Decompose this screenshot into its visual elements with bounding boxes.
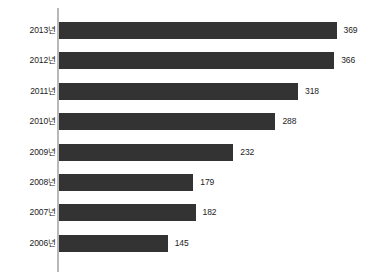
bar-value-label: 232 (240, 145, 254, 160)
bar-value-label: 366 (341, 53, 355, 68)
bar (59, 83, 299, 100)
bar (59, 113, 276, 130)
bar-value-label: 182 (203, 205, 217, 220)
bar-value-label: 318 (305, 84, 319, 99)
bar-row: 2006년145 (0, 235, 380, 252)
plot-area: 2013년3692012년3662011년3182010년2882009년232… (0, 0, 380, 280)
category-label: 2011년 (30, 84, 56, 99)
category-label: 2006년 (30, 236, 56, 251)
category-label: 2012년 (30, 53, 56, 68)
bar (59, 174, 194, 191)
bar (59, 52, 335, 69)
bar-value-label: 369 (344, 23, 358, 38)
bar-row: 2010년288 (0, 113, 380, 130)
category-label: 2008년 (30, 175, 56, 190)
bar (59, 144, 234, 161)
bar-row: 2007년182 (0, 204, 380, 221)
bar (59, 204, 196, 221)
bar-chart: 2013년3692012년3662011년3182010년2882009년232… (0, 0, 380, 280)
bar (59, 22, 337, 39)
bar-row: 2013년369 (0, 22, 380, 39)
category-label: 2009년 (30, 145, 56, 160)
category-label: 2007년 (30, 205, 56, 220)
bar-value-label: 288 (282, 114, 296, 129)
bar-row: 2008년179 (0, 174, 380, 191)
bar-value-label: 179 (200, 175, 214, 190)
bar-row: 2009년232 (0, 144, 380, 161)
bar-row: 2011년318 (0, 83, 380, 100)
category-label: 2013년 (30, 23, 56, 38)
category-label: 2010년 (30, 114, 56, 129)
bar (59, 235, 168, 252)
bar-value-label: 145 (175, 236, 189, 251)
bar-row: 2012년366 (0, 52, 380, 69)
